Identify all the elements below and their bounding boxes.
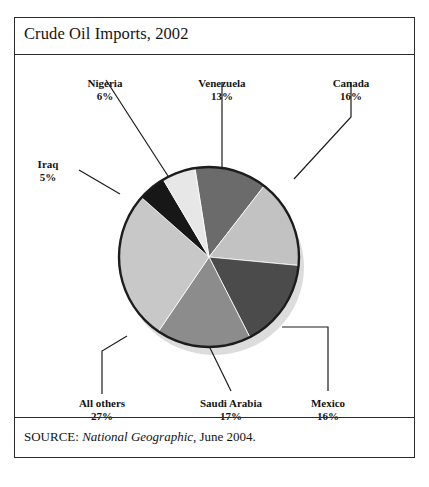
slice-label-saudi-arabia-value: 17% [186, 410, 276, 423]
source-divider [15, 417, 414, 418]
source-note: SOURCE: National Geographic, June 2004. [24, 429, 256, 445]
slice-label-canada: Canada 16% [306, 77, 396, 102]
pie-chart-svg [15, 55, 416, 420]
leader-line-all-others [102, 336, 127, 394]
slice-label-venezuela-name: Venezuela [198, 77, 245, 89]
slice-label-mexico: Mexico 16% [283, 397, 373, 422]
leader-line-iraq [79, 170, 120, 194]
slice-label-venezuela-value: 13% [177, 90, 267, 103]
source-publication: National Geographic [82, 429, 193, 444]
slice-label-all-others-name: All others [79, 397, 125, 409]
slice-label-iraq: Iraq 5% [19, 158, 77, 183]
slice-label-saudi-arabia: Saudi Arabia 17% [186, 397, 276, 422]
slice-label-all-others-value: 27% [57, 410, 147, 423]
slice-label-saudi-arabia-name: Saudi Arabia [200, 397, 262, 409]
slice-label-mexico-name: Mexico [311, 397, 345, 409]
slice-label-canada-value: 16% [306, 90, 396, 103]
slice-label-venezuela: Venezuela 13% [177, 77, 267, 102]
figure-title: Crude Oil Imports, 2002 [24, 24, 189, 44]
leader-line-mexico [282, 327, 328, 391]
slice-label-canada-name: Canada [333, 77, 370, 89]
slice-label-nigeria-value: 6% [60, 90, 150, 103]
source-suffix: , June 2004. [193, 429, 256, 444]
slice-label-iraq-value: 5% [19, 171, 77, 184]
slice-label-mexico-value: 16% [283, 410, 373, 423]
slice-label-nigeria-name: Nigeria [88, 77, 123, 89]
figure-frame: Crude Oil Imports, 2002 Nigeria 6% Venez… [14, 17, 415, 458]
slice-label-nigeria: Nigeria 6% [60, 77, 150, 102]
slice-label-all-others: All others 27% [57, 397, 147, 422]
slice-label-iraq-name: Iraq [38, 158, 59, 170]
pie-chart-plot-area: Nigeria 6% Venezuela 13% Canada 16% Iraq… [15, 55, 414, 420]
source-prefix: SOURCE: [24, 429, 79, 444]
